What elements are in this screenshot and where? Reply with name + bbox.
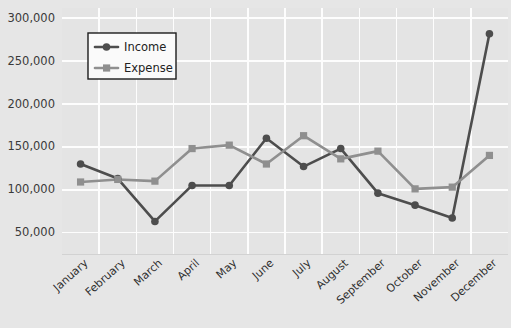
data-point-income	[77, 160, 85, 168]
data-point-income	[225, 182, 233, 190]
legend-marker-income	[103, 43, 111, 51]
data-point-income	[411, 201, 419, 209]
y-tick-label: 150,000	[7, 139, 55, 153]
y-tick-label: 250,000	[7, 54, 55, 68]
data-point-expense	[486, 152, 493, 159]
chart-container: 50,000100,000150,000200,000250,000300,00…	[0, 0, 511, 328]
data-point-expense	[337, 155, 344, 162]
data-point-income	[486, 30, 494, 38]
data-point-expense	[188, 145, 195, 152]
data-point-income	[448, 214, 456, 222]
data-point-income	[151, 218, 159, 226]
y-tick-label: 100,000	[7, 182, 55, 196]
line-chart: 50,000100,000150,000200,000250,000300,00…	[0, 0, 511, 328]
data-point-expense	[77, 178, 84, 185]
data-point-expense	[151, 178, 158, 185]
legend-marker-expense	[103, 64, 110, 71]
legend-label-income: Income	[124, 40, 166, 54]
data-point-income	[337, 145, 345, 153]
data-point-expense	[114, 176, 121, 183]
legend-label-expense: Expense	[124, 61, 173, 75]
y-tick-label: 200,000	[7, 97, 55, 111]
data-point-expense	[449, 184, 456, 191]
data-point-expense	[226, 142, 233, 149]
data-point-income	[188, 182, 196, 190]
data-point-expense	[300, 132, 307, 139]
data-point-income	[374, 189, 382, 197]
data-point-expense	[374, 148, 381, 155]
y-tick-label: 300,000	[7, 11, 55, 25]
y-tick-label: 50,000	[15, 225, 55, 239]
data-point-income	[300, 163, 308, 171]
data-point-income	[263, 134, 271, 142]
data-point-expense	[263, 160, 270, 167]
chart-legend: IncomeExpense	[88, 33, 176, 79]
data-point-expense	[411, 185, 418, 192]
